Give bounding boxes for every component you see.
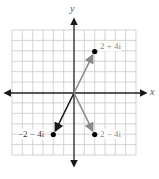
point-neg2-minus-4i: [51, 132, 56, 137]
point-2-minus-4i: [92, 132, 97, 137]
y-axis-label: y: [70, 4, 74, 14]
x-axis-label: x: [150, 87, 154, 97]
vector-2-minus-4i: [74, 93, 93, 131]
vector-neg2-minus-4i: [56, 93, 75, 131]
label-2-minus-4i: 2 − 4i: [99, 129, 122, 139]
label-2-plus-4i: 2 + 4i: [99, 41, 122, 51]
point-2-plus-4i: [92, 49, 97, 54]
axes: [5, 19, 146, 166]
complex-plane-diagram: [0, 0, 159, 179]
label-neg2-minus-4i: −2 − 4i: [17, 129, 45, 139]
